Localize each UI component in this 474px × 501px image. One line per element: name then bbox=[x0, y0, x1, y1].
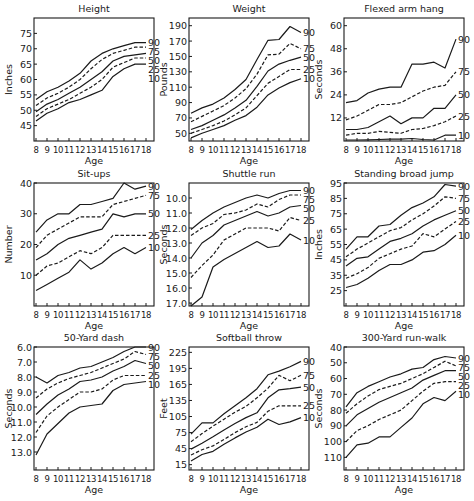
x-tick-label: 13 bbox=[241, 310, 251, 320]
percentile-line-10 bbox=[191, 234, 301, 306]
y-tick-label: 12.0 bbox=[11, 432, 32, 443]
x-tick-label: 18 bbox=[451, 474, 461, 484]
x-tick-label: 11 bbox=[64, 145, 74, 155]
x-tick-label: 8 bbox=[33, 145, 38, 155]
y-tick-label: 55 bbox=[20, 89, 32, 100]
x-tick-label: 17 bbox=[440, 474, 450, 484]
x-tick-label: 11 bbox=[219, 474, 229, 484]
plot-frame bbox=[189, 347, 309, 470]
x-tick-label: 9 bbox=[199, 474, 204, 484]
fitness-percentile-charts: Height4550556065707589101112131415161718… bbox=[0, 0, 474, 501]
x-tick-label: 15 bbox=[418, 310, 428, 320]
y-tick-label: 90 bbox=[175, 97, 187, 108]
chart-softball-throw: Softball throw15457510513516519522589101… bbox=[155, 329, 315, 501]
y-tick-label: 12 bbox=[330, 112, 342, 123]
y-tick-label: 135 bbox=[169, 395, 187, 406]
y-axis-label: Number bbox=[3, 225, 14, 263]
y-tick-label: 75 bbox=[330, 208, 342, 219]
y-tick-label: 15 bbox=[175, 459, 187, 470]
y-tick-label: 20 bbox=[20, 239, 32, 250]
x-tick-label: 10 bbox=[53, 145, 63, 155]
y-tick-label: 130 bbox=[169, 66, 187, 77]
percentile-line-25 bbox=[346, 221, 456, 278]
chart-title: Shuttle run bbox=[223, 168, 276, 179]
y-tick-label: 13.0 bbox=[11, 447, 32, 458]
x-tick-label: 18 bbox=[296, 310, 306, 320]
x-tick-label: 10 bbox=[363, 474, 373, 484]
x-tick-label: 13 bbox=[396, 474, 406, 484]
x-tick-label: 8 bbox=[188, 474, 193, 484]
x-tick-label: 11 bbox=[64, 474, 74, 484]
percentile-line-50 bbox=[191, 57, 301, 129]
x-tick-label: 15 bbox=[108, 474, 118, 484]
chart-title: 50-Yard dash bbox=[64, 332, 124, 343]
percentile-label-90: 90 bbox=[458, 34, 470, 45]
percentile-label-25: 25 bbox=[458, 111, 470, 122]
y-axis-label: Inches bbox=[313, 229, 324, 260]
y-tick-label: 9.0 bbox=[17, 387, 32, 398]
y-tick-label: 80 bbox=[330, 405, 342, 416]
chart-svg: Sit-ups1020304089101112131415161718AgeNu… bbox=[0, 165, 160, 331]
chart-300-yard-run-walk: 300-Yard run-walk40506070809010011089101… bbox=[310, 329, 474, 501]
y-axis-label: Seconds bbox=[3, 388, 14, 428]
y-axis-label: Feet bbox=[158, 398, 169, 419]
x-tick-label: 9 bbox=[44, 310, 49, 320]
x-tick-label: 13 bbox=[241, 474, 251, 484]
chart-title: 300-Yard run-walk bbox=[362, 332, 447, 343]
x-tick-label: 11 bbox=[374, 474, 384, 484]
plot-frame bbox=[34, 183, 154, 306]
y-tick-label: 16.0 bbox=[166, 283, 187, 294]
chart-standing-broad-jump: Standing broad jump253545556575859589101… bbox=[310, 165, 474, 331]
y-tick-label: 150 bbox=[169, 51, 187, 62]
x-tick-label: 8 bbox=[33, 474, 38, 484]
percentile-line-50 bbox=[36, 361, 146, 415]
x-tick-label: 12 bbox=[385, 145, 395, 155]
x-tick-label: 14 bbox=[407, 310, 417, 320]
x-tick-label: 8 bbox=[343, 145, 348, 155]
y-tick-label: 65 bbox=[330, 224, 342, 235]
chart-title: Softball throw bbox=[216, 332, 282, 343]
percentile-line-50 bbox=[346, 371, 456, 426]
x-tick-label: 14 bbox=[97, 310, 107, 320]
x-tick-label: 15 bbox=[263, 310, 273, 320]
chart-height: Height4550556065707589101112131415161718… bbox=[0, 0, 160, 166]
x-tick-label: 8 bbox=[188, 145, 193, 155]
x-tick-label: 13 bbox=[396, 145, 406, 155]
chart-title: Height bbox=[78, 3, 110, 14]
x-tick-label: 17 bbox=[130, 145, 140, 155]
y-tick-label: 6.0 bbox=[17, 342, 32, 353]
percentile-line-90 bbox=[36, 183, 146, 232]
x-tick-label: 12 bbox=[385, 474, 395, 484]
y-tick-label: 35 bbox=[330, 270, 342, 281]
x-tick-label: 18 bbox=[141, 310, 151, 320]
percentile-label-10: 10 bbox=[458, 230, 470, 241]
x-tick-label: 9 bbox=[199, 145, 204, 155]
x-tick-label: 9 bbox=[354, 474, 359, 484]
x-tick-label: 17 bbox=[130, 310, 140, 320]
x-tick-label: 17 bbox=[130, 474, 140, 484]
y-tick-label: 25 bbox=[330, 285, 342, 296]
x-tick-label: 17 bbox=[440, 310, 450, 320]
y-tick-label: 50 bbox=[330, 357, 342, 368]
x-axis-label: Age bbox=[240, 484, 259, 495]
y-tick-label: 110 bbox=[324, 452, 342, 463]
x-axis-label: Age bbox=[395, 484, 414, 495]
x-tick-label: 14 bbox=[97, 474, 107, 484]
y-tick-label: 11.0 bbox=[11, 417, 32, 428]
y-tick-label: 60 bbox=[330, 373, 342, 384]
x-tick-label: 9 bbox=[44, 474, 49, 484]
percentile-label-75: 75 bbox=[458, 193, 470, 204]
y-axis-label: Pounds bbox=[158, 62, 169, 96]
x-tick-label: 14 bbox=[252, 145, 262, 155]
x-tick-label: 10 bbox=[363, 310, 373, 320]
y-tick-label: 17.0 bbox=[166, 298, 187, 309]
chart-svg: 300-Yard run-walk40506070809010011089101… bbox=[310, 329, 474, 501]
chart-title: Standing broad jump bbox=[354, 168, 454, 179]
x-tick-label: 15 bbox=[108, 145, 118, 155]
x-tick-label: 18 bbox=[451, 310, 461, 320]
y-tick-label: 225 bbox=[169, 347, 187, 358]
percentile-label-25: 25 bbox=[458, 216, 470, 227]
chart-svg: Standing broad jump253545556575859589101… bbox=[310, 165, 474, 331]
x-tick-label: 18 bbox=[141, 145, 151, 155]
x-tick-label: 12 bbox=[75, 474, 85, 484]
